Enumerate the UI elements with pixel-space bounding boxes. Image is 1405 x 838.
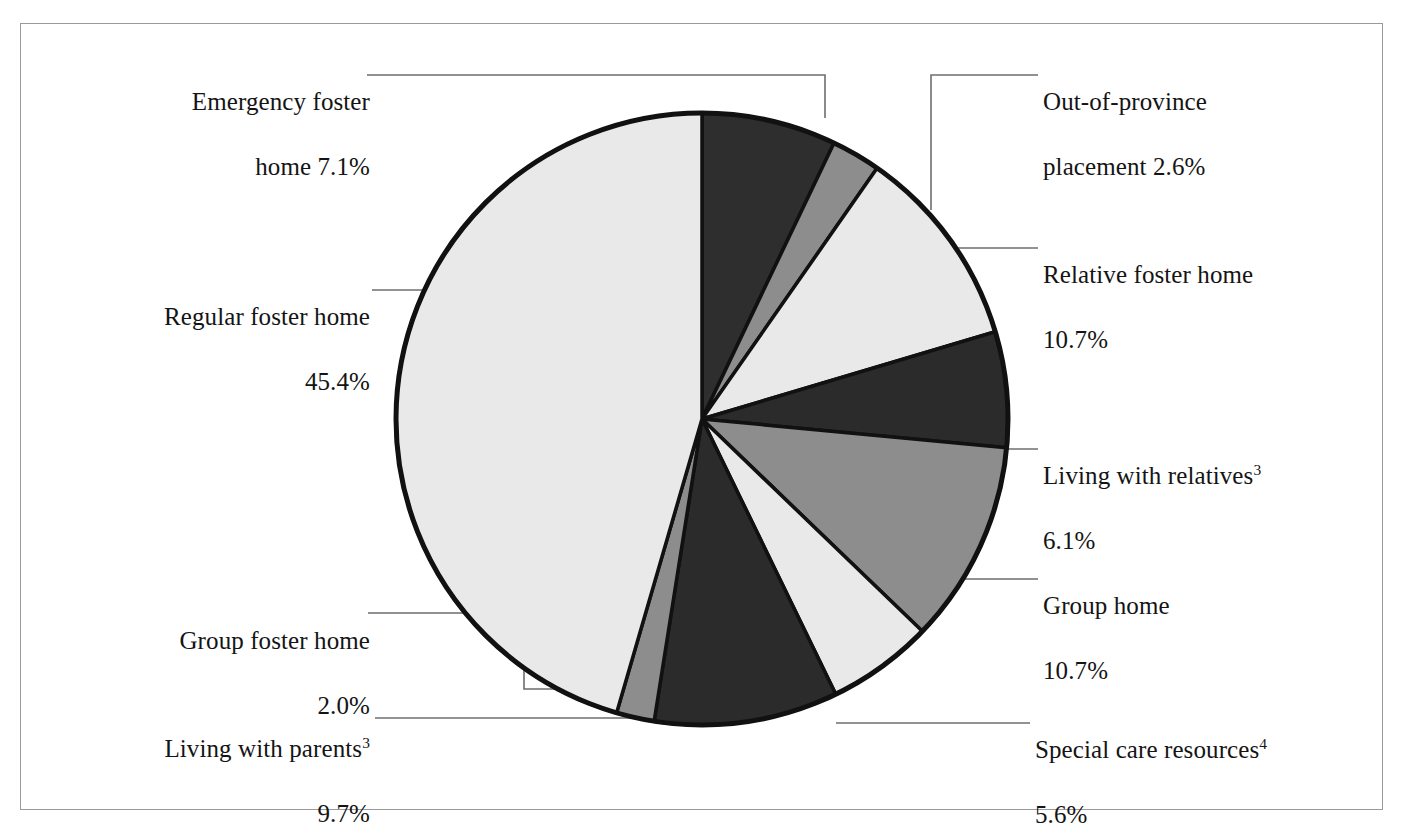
slice-label-relative-foster-home: Relative foster home 10.7% (1043, 226, 1383, 356)
slice-label-line-1: Group foster home (179, 627, 370, 654)
slice-label-line-2: 45.4% (305, 368, 370, 395)
pie-slices-group (396, 113, 1008, 725)
slice-label-line-2: 10.7% (1043, 657, 1108, 684)
slice-label-line-2: 6.1% (1043, 527, 1095, 554)
slice-label-line-2: 9.7% (318, 800, 370, 827)
slice-label-living-with-relatives: Living with relatives3 6.1% (1043, 427, 1388, 557)
slice-label-line-1: Regular foster home (164, 303, 370, 330)
slice-label-line-2: 10.7% (1043, 326, 1108, 353)
slice-label-line-2: 5.6% (1035, 801, 1087, 828)
slice-label-living-with-parents: Living with parents3 9.7% (40, 700, 370, 830)
slice-label-emergency-foster-home: Emergency foster home 7.1% (70, 53, 370, 183)
slice-label-line-1: Living with relatives (1043, 462, 1253, 489)
leader-line-out-of-province (931, 75, 1038, 210)
slice-label-group-home: Group home 10.7% (1043, 557, 1363, 687)
footnote-marker: 3 (1253, 460, 1261, 477)
slice-label-line-1: Emergency foster (192, 88, 370, 115)
slice-label-line-1: Group home (1043, 592, 1170, 619)
slice-label-line-2: home 7.1% (255, 153, 370, 180)
leader-line-emergency-foster-home (367, 75, 825, 118)
slice-label-line-2: placement 2.6% (1043, 153, 1205, 180)
slice-label-line-1: Living with parents (164, 735, 362, 762)
slice-label-line-1: Out-of-province (1043, 88, 1207, 115)
slice-label-regular-foster-home: Regular foster home 45.4% (30, 268, 370, 398)
slice-label-special-care-resources: Special care resources4 5.6% (1035, 701, 1395, 831)
footnote-marker: 4 (1259, 734, 1267, 751)
footnote-marker: 3 (362, 733, 370, 750)
slice-label-line-1: Relative foster home (1043, 261, 1253, 288)
slice-label-out-of-province-placement: Out-of-province placement 2.6% (1043, 53, 1373, 183)
slice-label-line-1: Special care resources (1035, 736, 1259, 763)
